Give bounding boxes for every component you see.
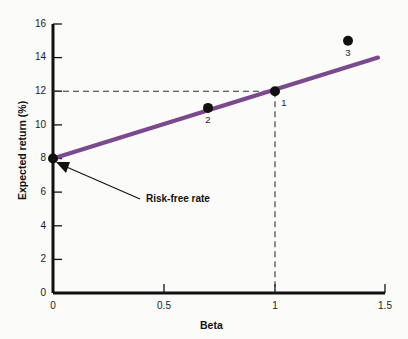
y-tick-label-14: 14 — [22, 51, 46, 62]
data-point-label-3: 3 — [339, 47, 357, 58]
data-point-label-1: 1 — [275, 97, 293, 108]
security-market-line-chart: 16 14 12 10 8 6 4 2 0 0 0.5 1 1.5 Expect… — [0, 0, 408, 339]
y-axis-title: Expected return (%) — [16, 101, 28, 200]
risk-free-rate-arrow — [56, 162, 140, 199]
data-point-marker-1 — [270, 86, 280, 96]
security-market-line — [53, 58, 378, 159]
y-tick-label-4: 4 — [22, 220, 46, 231]
y-tick-label-16: 16 — [22, 18, 46, 29]
data-point-label-2: 2 — [199, 114, 217, 125]
x-tick-label-1-5: 1.5 — [370, 300, 400, 311]
data-point-marker-3 — [343, 36, 353, 46]
risk-free-rate-annotation: Risk-free rate — [146, 193, 210, 204]
x-tick-label-0-5: 0.5 — [149, 300, 179, 311]
x-tick-label-0: 0 — [38, 300, 68, 311]
y-tick-label-0: 0 — [22, 287, 46, 298]
y-tick-label-12: 12 — [22, 85, 46, 96]
data-point-marker-2 — [203, 103, 213, 113]
x-axis-title: Beta — [200, 319, 223, 331]
x-tick-label-1: 1 — [260, 300, 290, 311]
y-tick-label-2: 2 — [22, 253, 46, 264]
